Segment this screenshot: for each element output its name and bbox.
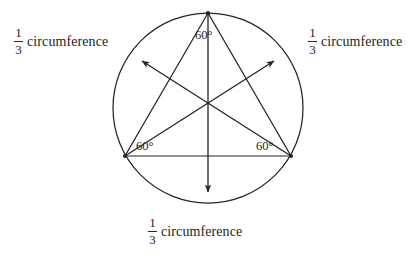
- fraction-one-third-right: 1 3: [308, 26, 317, 57]
- angle-label-bottom-right: 60°: [256, 140, 274, 153]
- fraction-one-third-left: 1 3: [14, 26, 23, 57]
- caption-bottom-text: circumference: [161, 225, 242, 239]
- figure-container: 60° 60° 60° 1 3 circumference 1 3 circum…: [0, 0, 419, 259]
- fraction-denominator: 3: [148, 233, 157, 247]
- fraction-one-third-bottom: 1 3: [148, 216, 157, 247]
- fraction-denominator: 3: [14, 43, 23, 57]
- angle-label-top: 60°: [195, 29, 213, 42]
- angle-label-bottom-left: 60°: [136, 140, 154, 153]
- caption-bottom-arc: 1 3 circumference: [148, 216, 242, 247]
- caption-left-text: circumference: [27, 35, 108, 49]
- fraction-numerator: 1: [308, 26, 317, 40]
- caption-left-arc: 1 3 circumference: [14, 26, 108, 57]
- fraction-denominator: 3: [308, 43, 317, 57]
- caption-right-arc: 1 3 circumference: [308, 26, 402, 57]
- fraction-numerator: 1: [148, 216, 157, 230]
- fraction-numerator: 1: [14, 26, 23, 40]
- caption-right-text: circumference: [321, 35, 402, 49]
